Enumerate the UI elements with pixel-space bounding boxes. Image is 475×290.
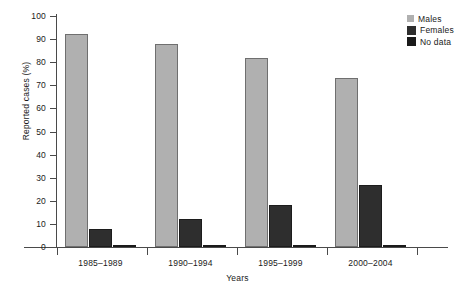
bar-males — [155, 44, 178, 247]
bar-group — [155, 16, 245, 247]
legend-item-label: Females — [420, 25, 454, 35]
legend-item: Females — [407, 25, 454, 37]
y-axis-tick-label: 40 — [6, 151, 46, 160]
y-axis-tick-label: 60 — [6, 104, 46, 113]
x-axis-category-label: 2000–2004 — [316, 258, 426, 268]
bar-group — [335, 16, 425, 247]
y-axis-tick — [50, 16, 57, 17]
x-axis-tick — [237, 248, 238, 255]
bar-females — [359, 185, 382, 247]
y-axis-tick — [50, 132, 57, 133]
y-axis-tick — [50, 39, 57, 40]
bar-group — [65, 16, 155, 247]
bar-females — [269, 205, 292, 247]
y-axis-tick-label: 10 — [6, 220, 46, 229]
bar-group — [245, 16, 335, 247]
plot-area — [57, 16, 417, 247]
bar-males — [65, 34, 88, 247]
x-axis-tick — [327, 248, 328, 255]
x-axis-tick — [147, 248, 148, 255]
bar-no-data — [203, 245, 226, 247]
bar-males — [245, 58, 268, 247]
legend-item-label: No data — [420, 37, 451, 47]
y-axis-tick — [50, 201, 57, 202]
y-axis-tick — [50, 85, 57, 86]
y-axis-tick — [50, 247, 57, 248]
legend-item: Males — [407, 13, 454, 25]
y-axis-tick-label: 70 — [6, 81, 46, 90]
bar-chart: Reported cases (%) 010203040506070809010… — [0, 0, 475, 290]
y-axis-tick-label: 0 — [6, 243, 46, 252]
legend-swatch-no-data-icon — [407, 37, 416, 46]
bar-no-data — [293, 245, 316, 247]
y-axis-tick-label: 50 — [6, 128, 46, 137]
y-axis-tick — [50, 155, 57, 156]
bar-males — [335, 78, 358, 247]
bar-females — [179, 219, 202, 247]
y-axis-tick — [50, 108, 57, 109]
y-axis-tick-label: 30 — [6, 174, 46, 183]
x-axis-tick — [57, 248, 58, 255]
legend-swatch-males-icon — [407, 15, 414, 22]
legend-item: No data — [407, 36, 454, 48]
x-axis-line — [24, 247, 448, 248]
y-axis-tick — [50, 178, 57, 179]
x-axis-tick — [417, 248, 418, 255]
y-axis-tick — [50, 62, 57, 63]
bar-females — [89, 229, 112, 247]
y-axis-tick-label: 100 — [6, 12, 46, 21]
bar-no-data — [383, 245, 406, 247]
legend-item-label: Males — [418, 14, 442, 24]
y-axis-tick — [50, 224, 57, 225]
chart-legend: MalesFemalesNo data — [407, 13, 454, 48]
y-axis-tick-label: 90 — [6, 35, 46, 44]
bar-no-data — [113, 245, 136, 247]
y-axis-tick-label: 80 — [6, 58, 46, 67]
x-axis-title: Years — [0, 273, 475, 283]
legend-swatch-females-icon — [407, 26, 416, 35]
y-axis-tick-label: 20 — [6, 197, 46, 206]
